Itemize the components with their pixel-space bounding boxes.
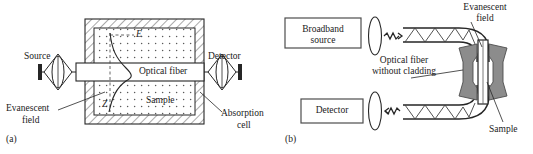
figure-evanescent-wave-sensors: Source Detector Optical fiber Sample E Z… <box>0 0 533 154</box>
detector-coupling-lens <box>369 92 382 130</box>
label-detector-b: Detector <box>301 105 363 116</box>
label-evanescent-field-b-line2: field <box>439 13 531 24</box>
bare-fiber-segment <box>478 40 488 104</box>
panel-a-tag: (a) <box>6 134 17 144</box>
label-optical-fiber-line1: Optical fiber <box>339 55 469 66</box>
panel-a-drawing <box>0 0 270 154</box>
label-sample-b: Sample <box>489 124 518 135</box>
light-arrow-lower <box>385 108 400 114</box>
label-optical-fiber-line2: without cladding <box>331 66 477 77</box>
leader-evanescent-field-b <box>471 22 482 47</box>
light-arrow-upper <box>384 33 402 39</box>
label-optical-fiber: Optical fiber <box>139 66 187 77</box>
label-source: Source <box>24 51 50 62</box>
panel-a: Source Detector Optical fiber Sample E Z… <box>0 0 270 154</box>
label-evanescent-field-line2: field <box>22 115 39 126</box>
panel-b-tag: (b) <box>285 134 296 144</box>
label-axis-depth: Z <box>102 99 107 110</box>
label-detector: Detector <box>208 51 241 62</box>
label-sample: Sample <box>146 95 175 106</box>
label-evanescent-field-line1: Evanescent <box>6 103 49 114</box>
label-broadband-source-line1: Broadband <box>285 24 361 35</box>
source-coupling-lens <box>369 17 382 55</box>
label-absorption-cell-line1: Absorption <box>221 108 264 119</box>
label-axis-field: E <box>136 29 142 40</box>
label-broadband-source-line2: source <box>285 35 361 46</box>
label-absorption-cell-line2: cell <box>237 120 251 131</box>
panel-b: Broadband source Detector Optical fiber … <box>263 0 533 154</box>
label-evanescent-field-b-line1: Evanescent <box>439 2 531 13</box>
